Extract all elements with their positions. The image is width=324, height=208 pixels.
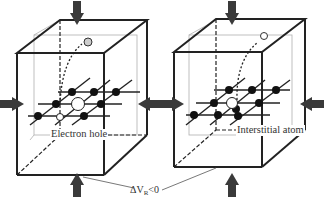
volume-change-label: ΔVR<0	[130, 185, 159, 197]
left-large-vacancy	[72, 98, 85, 111]
right-bottom-arrow-icon	[225, 173, 239, 197]
right-left-arrow-icon	[160, 97, 184, 111]
left-escaped-atom	[84, 38, 92, 46]
left-left-arrow-icon	[0, 97, 24, 111]
right-outer-cube	[174, 19, 305, 167]
left-outer-cube	[17, 20, 147, 175]
left-inner-box	[30, 20, 137, 140]
delta-v-relation: <0	[148, 184, 159, 195]
electron-hole-marker	[57, 114, 64, 121]
right-vacancy	[227, 98, 238, 109]
left-bottom-arrow-icon	[70, 173, 84, 197]
electron-hole-label: Electron hole	[50, 129, 108, 140]
left-top-arrow-icon	[70, 1, 84, 25]
interstitial-atom-label: Interstitial atom	[236, 125, 305, 136]
right-escaped-atom	[261, 33, 268, 40]
left-right-arrow-icon	[138, 97, 162, 111]
left-cube	[0, 1, 162, 197]
delta-v-symbol: ΔV	[130, 184, 144, 195]
right-top-arrow-icon	[225, 1, 239, 25]
right-right-arrow-icon	[300, 97, 324, 111]
defect-diagram	[0, 0, 324, 208]
right-cube	[160, 1, 324, 197]
